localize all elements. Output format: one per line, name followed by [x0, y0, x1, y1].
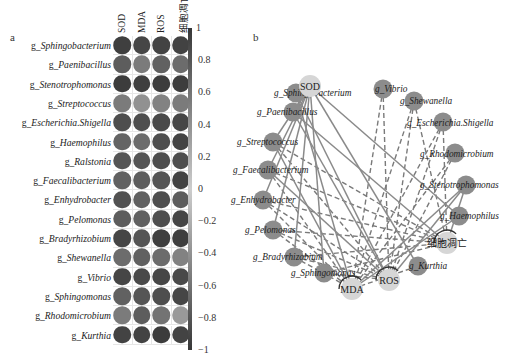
matrix-cell — [113, 248, 133, 267]
correlation-dot — [133, 191, 151, 209]
positive-edge — [273, 86, 310, 142]
negative-edge — [443, 122, 447, 243]
genus-name: Haemophilus — [60, 137, 111, 148]
matrix-cell — [113, 268, 133, 287]
genus-prefix: g_ — [50, 137, 60, 148]
colorbar-tick-label: 0.6 — [198, 86, 211, 97]
matrix-cell — [152, 36, 172, 55]
genus-node — [374, 80, 393, 99]
colorbar-tick-label: 0.4 — [198, 119, 211, 130]
negative-edge — [273, 142, 389, 280]
genus-node — [259, 161, 278, 180]
matrix-cell — [133, 306, 153, 325]
negative-edge — [273, 230, 352, 289]
row-label: g_Rhodomicrobium — [35, 310, 111, 321]
matrix-cell — [152, 210, 172, 229]
positive-edge — [296, 93, 352, 289]
genus-node — [264, 133, 283, 152]
genus-node — [284, 103, 303, 122]
genus-node-label: g_Sphingomonas — [291, 268, 355, 278]
matrix-cell — [133, 36, 153, 55]
negative-edge — [268, 170, 447, 243]
genus-node — [254, 191, 273, 210]
genus-prefix: g_ — [49, 59, 59, 70]
matrix-cell — [113, 55, 133, 74]
correlation-dot — [153, 249, 171, 267]
correlation-dot — [133, 268, 151, 286]
matrix-cell — [113, 306, 133, 325]
genus-name: Faecalibacterium — [43, 175, 111, 186]
positive-edge — [310, 86, 418, 266]
genus-node-label: g_Enhydrobacter — [231, 195, 296, 205]
row-label: g_Sphingomonas — [45, 291, 111, 302]
matrix-cell — [152, 229, 172, 248]
positive-edge — [389, 185, 466, 280]
matrix-cell — [152, 55, 172, 74]
target-node-label: MDA — [340, 284, 364, 295]
correlation-dot — [114, 171, 132, 189]
matrix-cell — [152, 94, 172, 113]
correlation-dot — [133, 75, 151, 93]
genus-name: Paenibacillus — [58, 59, 111, 70]
negative-edge — [324, 273, 389, 280]
row-label: g_Sphingobacterium — [31, 40, 111, 51]
correlation-dot — [172, 287, 190, 305]
matrix-cell — [133, 326, 153, 345]
genus-prefix: g_ — [65, 156, 75, 167]
matrix-cell — [113, 75, 133, 94]
positive-edge — [310, 86, 324, 273]
genus-name: Escherichia.Shigella — [31, 117, 111, 128]
correlation-dot — [133, 94, 151, 112]
correlation-dot — [153, 75, 171, 93]
colorbar-tick-label: −0.2 — [198, 215, 216, 226]
matrix-cell — [152, 133, 172, 152]
correlation-dot — [153, 36, 171, 54]
row-label: g_Enhydrobacter — [44, 194, 111, 205]
target-node-label: 细胞凋亡 — [427, 237, 467, 249]
genus-prefix: g_ — [45, 291, 55, 302]
negative-edge — [263, 200, 389, 280]
correlation-dot — [153, 191, 171, 209]
negative-edge — [294, 257, 352, 289]
genus-prefix: g_ — [31, 40, 41, 51]
target-node — [299, 75, 321, 97]
matrix-cell — [133, 171, 153, 190]
matrix-cell — [113, 229, 133, 248]
negative-edge — [273, 230, 447, 243]
row-label: g_Vibrio — [78, 272, 111, 283]
colorbar-tick-label: 0.8 — [198, 54, 211, 65]
genus-node — [264, 221, 283, 240]
column-label: MDA — [137, 11, 147, 33]
colorbar-tick-label: 0.2 — [198, 151, 211, 162]
genus-prefix: g_ — [59, 214, 69, 225]
positive-edge — [293, 112, 447, 243]
matrix-cell — [113, 210, 133, 229]
genus-node-label: g_Haemophilus — [440, 211, 499, 221]
negative-edge — [383, 89, 389, 280]
correlation-dot — [114, 94, 132, 112]
correlation-dot — [172, 36, 190, 54]
positive-edge — [268, 170, 389, 280]
genus-name: Kurthia — [81, 330, 111, 341]
genus-name: Pelomonas — [68, 214, 111, 225]
matrix-cell — [133, 152, 153, 171]
correlation-dot — [153, 307, 171, 325]
negative-edge — [263, 200, 447, 243]
matrix-cell — [133, 268, 153, 287]
colorbar-tick-label: 0 — [198, 183, 203, 194]
matrix-cell — [152, 152, 172, 171]
matrix-cell — [133, 75, 153, 94]
correlation-dot — [133, 114, 151, 132]
correlation-dot — [172, 133, 190, 151]
row-label: g_Pelomonas — [59, 214, 111, 225]
correlation-dot — [153, 114, 171, 132]
matrix-cell — [133, 210, 153, 229]
genus-name: Sphingomonas — [55, 291, 112, 302]
negative-edge — [294, 257, 389, 280]
correlation-dot — [153, 152, 171, 170]
genus-node-label: g_Escherichia.Shigella — [407, 118, 494, 128]
negative-edge — [294, 243, 447, 257]
genus-prefix: g_ — [78, 272, 88, 283]
genus-prefix: g_ — [57, 252, 67, 263]
genus-name: Streptococcus — [58, 98, 111, 109]
